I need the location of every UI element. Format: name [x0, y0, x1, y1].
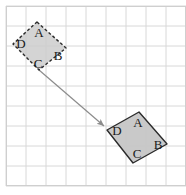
vertex-label-d: D [112, 123, 121, 138]
vertex-label-c: C [133, 146, 142, 161]
vertex-label-d: D [16, 36, 25, 51]
vertex-label-c: C [34, 56, 43, 71]
vertex-label-b: B [54, 48, 63, 63]
shapes: ABCDABCD [13, 22, 167, 163]
vertex-label-a: A [34, 25, 44, 40]
translation-vector-arrow [39, 70, 104, 126]
figure-canvas: ABCDABCD [0, 0, 186, 195]
geometry-figure: ABCDABCD [0, 0, 186, 195]
vertex-label-b: B [154, 137, 163, 152]
vertex-label-a: A [133, 115, 143, 130]
